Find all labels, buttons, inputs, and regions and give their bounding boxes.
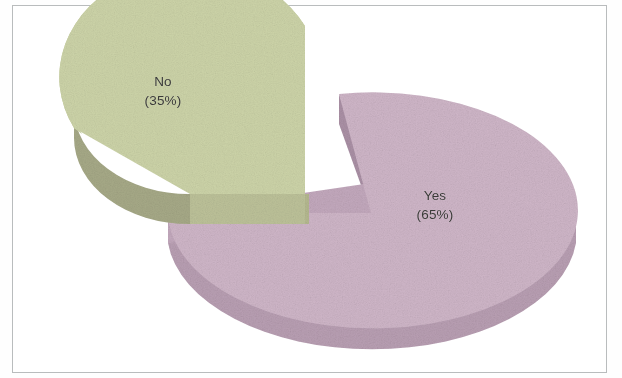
pie-label-no: No (35%) [120,72,206,110]
pie-label-no-value: (35%) [120,91,206,110]
pie-slice-no[interactable] [59,0,309,224]
pie-label-yes-name: Yes [392,186,478,205]
pie-label-yes-value: (65%) [392,205,478,224]
pie-slice-no-cut-face-right [305,194,309,224]
pie-slice-no-cut-face-bottom [190,194,305,224]
pie-chart-figure: No (35%) Yes (65%) [0,0,622,378]
pie-label-yes: Yes (65%) [392,186,478,224]
pie-chart-plot [0,0,622,378]
pie-label-no-name: No [120,72,206,91]
